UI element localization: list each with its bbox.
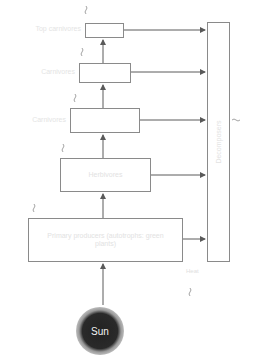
box-primary-producers: Primary producers (autotrophs: green pla… (28, 218, 183, 262)
sun-icon: Sun (76, 307, 124, 355)
box-carnivores-1 (70, 108, 140, 133)
box-herbivores: Herbivores (60, 158, 151, 192)
box-carnivores-2 (79, 63, 131, 83)
level-label-top-carnivores: Top carnivores (35, 25, 81, 32)
herbivores-label: Herbivores (89, 171, 123, 179)
level-label-carnivores-1: Carnivores (32, 116, 66, 123)
sun-label: Sun (91, 326, 109, 337)
heat-label: Heat (186, 268, 199, 274)
decomposers-label: Decomposers (215, 120, 223, 163)
box-decomposers: Decomposers (207, 22, 230, 262)
box-top-carnivores (85, 23, 124, 38)
level-label-carnivores-2: Carnivores (41, 68, 75, 75)
primary-producers-label: Primary producers (autotrophs: green pla… (37, 232, 174, 248)
